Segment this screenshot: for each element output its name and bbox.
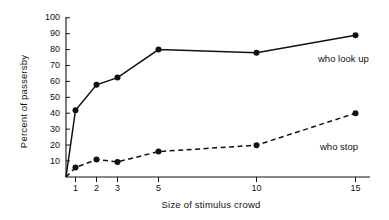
x-axis-title: Size of stimulus crowd [66,199,356,210]
x-tick-label-15: 15 [346,183,366,193]
y-tick-marks [66,18,70,161]
y-tick-label-100: 100 [36,12,60,22]
series-markers-who-look-up [73,32,359,113]
y-tick-label-90: 90 [36,28,60,38]
x-tick-label-10: 10 [247,183,267,193]
y-axis-title: Percent of passersby [18,42,29,162]
y-tick-label-20: 20 [36,140,60,150]
y-tick-label-30: 30 [36,124,60,134]
y-tick-label-10: 10 [36,156,60,166]
chart-figure: 100 90 80 70 60 50 40 30 20 10 1 2 3 5 1… [0,0,389,220]
series-label-who-stop: who stop [320,141,358,152]
x-tick-marks [76,177,356,182]
y-tick-label-60: 60 [36,76,60,86]
series-markers-who-stop [73,110,359,170]
x-tick-label-2: 2 [87,183,107,193]
series-label-who-look-up: who look up [318,53,369,64]
series-line-who-look-up [66,35,356,177]
series-line-who-stop [66,113,356,177]
x-tick-label-1: 1 [66,183,86,193]
y-tick-label-70: 70 [36,60,60,70]
x-tick-label-5: 5 [149,183,169,193]
y-tick-label-40: 40 [36,108,60,118]
y-tick-label-80: 80 [36,44,60,54]
y-tick-label-50: 50 [36,92,60,102]
x-tick-label-3: 3 [108,183,128,193]
